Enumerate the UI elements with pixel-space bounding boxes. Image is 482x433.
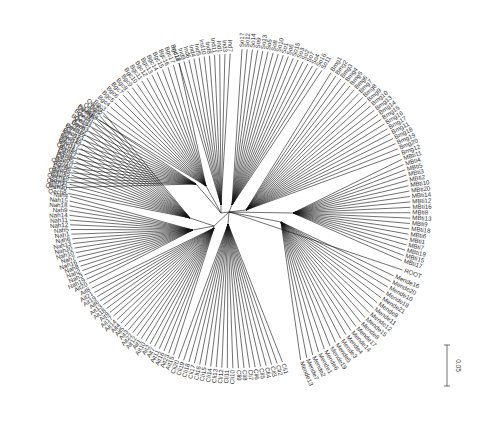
leaf-branch (293, 202, 410, 213)
backbone-branch (214, 212, 229, 226)
leaf-branch (246, 106, 371, 210)
leaf-branch (293, 213, 409, 234)
clade-stem-mbti (229, 212, 293, 213)
phylogenetic-tree-figure: Bgvi1Bgvi8Bgvi2Bgvi3Bgvi5Bgvi7Bgvi4Bgvi9… (0, 0, 482, 433)
leaf-branch (228, 224, 250, 368)
leaf-branch (80, 144, 196, 184)
leaf-branch (281, 222, 384, 292)
leaf-branch (121, 228, 214, 323)
leaf-branch (129, 228, 214, 330)
leaf-branch (71, 229, 193, 230)
leaf-branch (246, 115, 378, 210)
leaf-branch (194, 59, 221, 205)
leaf-branch (232, 52, 268, 205)
leaf-branch (228, 224, 272, 365)
leaf-label: Cli9 (236, 370, 243, 381)
leaf-branch (281, 222, 377, 303)
leaf-branch (100, 228, 214, 301)
leaf-branch (79, 230, 193, 262)
leaf-branch (293, 213, 410, 224)
leaf-branch (293, 213, 404, 255)
clade-stem-so (229, 205, 232, 212)
leaf-branch (281, 222, 391, 281)
leaf-branch (141, 228, 214, 339)
leaf-branch (281, 222, 356, 326)
leaf-branch (293, 165, 404, 213)
tree-canvas: Bgvi1Bgvi8Bgvi2Bgvi3Bgvi5Bgvi7Bgvi4Bgvi9… (0, 0, 482, 433)
leaf-label: Ind7 (227, 40, 234, 53)
leaf-branch (246, 90, 354, 210)
leaf-branch (110, 228, 214, 312)
leaf-branch (228, 224, 266, 366)
leaf-branch (281, 222, 365, 318)
leaf-labels-layer: Bgvi1Bgvi8Bgvi2Bgvi3Bgvi5Bgvi7Bgvi4Bgvi9… (45, 32, 432, 387)
leaf-branch (293, 213, 405, 250)
leaf-branch (246, 149, 398, 210)
leaf-branch (211, 224, 228, 366)
clade-stem-cli (228, 212, 229, 224)
leaf-branch (228, 224, 277, 363)
leaf-branch (232, 49, 242, 205)
leaf-branch (293, 191, 409, 213)
leaf-branch (232, 57, 288, 205)
leaf-branch (246, 129, 387, 210)
clade-stem-qech (190, 218, 214, 226)
leaf-branch (293, 175, 406, 213)
leaf-branch (142, 81, 206, 186)
leaf-branch (246, 119, 381, 210)
clade-stem-bmg (229, 210, 246, 212)
leaf-branch (221, 54, 230, 205)
leaf-branch (227, 224, 228, 368)
leaf-branch (293, 213, 406, 245)
leaf-branch (228, 224, 282, 362)
leaf-branch (69, 215, 193, 230)
leaf-branch (221, 54, 225, 205)
scale-bar-label: 0.05 (455, 359, 462, 372)
leaf-branch (204, 56, 221, 205)
leaf-branch (232, 50, 252, 205)
leaf-branch (281, 222, 335, 342)
scale-bar: 0.05 (444, 345, 462, 386)
